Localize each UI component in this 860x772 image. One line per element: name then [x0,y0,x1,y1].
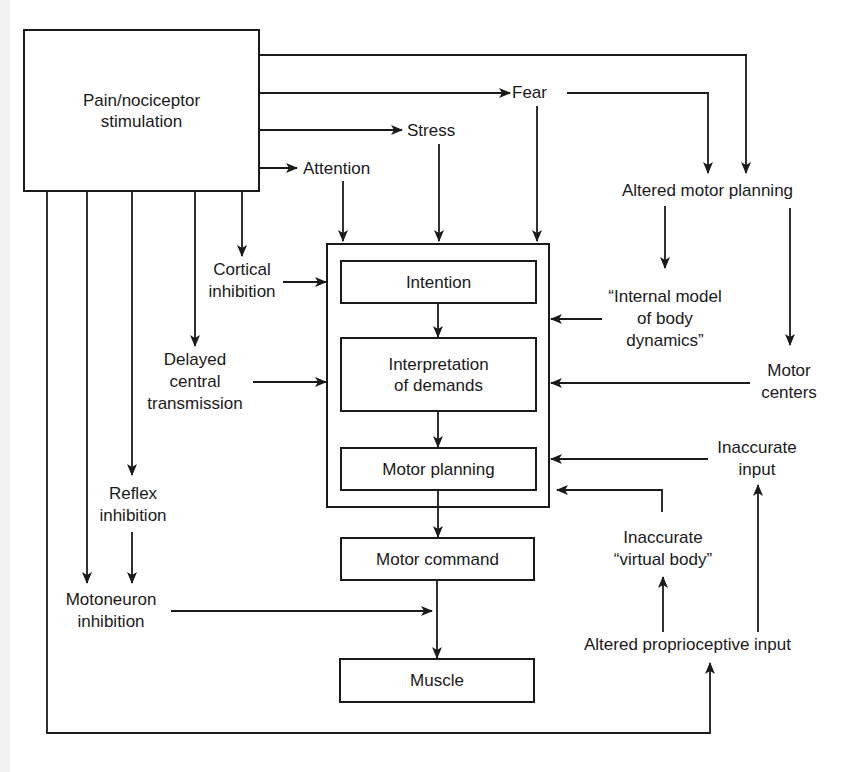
cortical-inhibition-label: Cortical inhibition [200,259,284,303]
motor-centers-label: Motor centers [751,360,827,404]
motoneuron-inhibition-label: Motoneuron inhibition [53,589,169,633]
pain-nociceptor-box: Pain/nociceptor stimulation [23,29,260,192]
altered-motor-planning-label: Altered motor planning [622,180,793,202]
motor-command-label: Motor command [376,549,499,570]
motor-command-box: Motor command [340,537,535,581]
motor-planning-label: Motor planning [382,459,494,480]
pain-nociceptor-label: Pain/nociceptor stimulation [83,90,200,132]
muscle-label: Muscle [410,670,464,691]
reflex-inhibition-label: Reflex inhibition [92,483,174,527]
intention-label: Intention [406,272,471,293]
delayed-central-transmission-label: Delayed central transmission [135,349,255,415]
attention-label: Attention [303,158,370,180]
inaccurate-virtual-body-label: Inaccurate “virtual body” [600,527,726,571]
internal-model-label: “Internal model of body dynamics” [592,286,738,352]
stress-label: Stress [407,120,455,142]
altered-proprioceptive-input-label: Altered proprioceptive input [584,634,791,656]
inaccurate-input-label: Inaccurate input [710,437,804,481]
interpretation-label: Interpretation of demands [388,354,488,396]
motor-planning-box: Motor planning [340,447,537,491]
intention-box: Intention [340,260,537,304]
muscle-box: Muscle [339,658,535,703]
interpretation-box: Interpretation of demands [340,337,537,412]
fear-label: Fear [512,82,547,104]
